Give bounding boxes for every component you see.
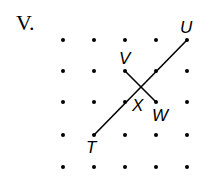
grid-dot bbox=[123, 38, 127, 42]
grid-dot bbox=[92, 100, 96, 104]
grid-dot bbox=[61, 100, 65, 104]
point-label-u: U bbox=[180, 18, 193, 37]
grid-dot bbox=[154, 38, 158, 42]
grid-dot bbox=[185, 165, 189, 169]
grid-dot bbox=[123, 133, 127, 137]
grid-dot bbox=[185, 100, 189, 104]
dot-grid-diagram: U V W T X bbox=[0, 0, 209, 180]
grid-dot bbox=[154, 165, 158, 169]
point-label-x: X bbox=[131, 96, 144, 115]
point-label-w: W bbox=[152, 106, 170, 125]
grid-dot bbox=[92, 69, 96, 73]
grid-dot bbox=[185, 133, 189, 137]
grid-dot bbox=[185, 69, 189, 73]
grid-dot bbox=[61, 69, 65, 73]
grid-dot bbox=[92, 38, 96, 42]
grid-dot bbox=[154, 133, 158, 137]
grid-dot bbox=[61, 133, 65, 137]
grid-dot bbox=[92, 165, 96, 169]
point-label-v: V bbox=[119, 49, 132, 68]
grid-dot bbox=[123, 165, 127, 169]
point-label-t: T bbox=[86, 138, 98, 157]
grid-dot bbox=[61, 165, 65, 169]
grid-dot bbox=[61, 38, 65, 42]
